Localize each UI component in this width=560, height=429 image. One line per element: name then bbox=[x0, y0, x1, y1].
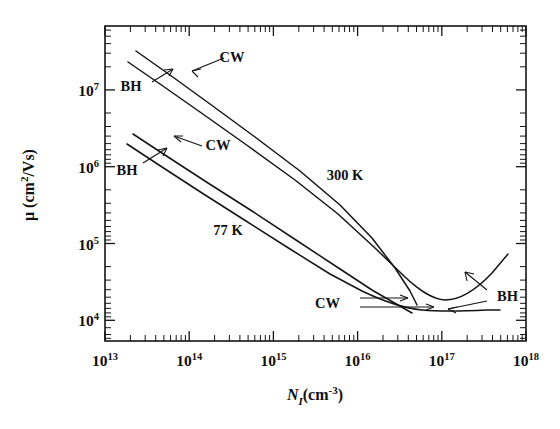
y-tick-label-0: 10 bbox=[78, 82, 94, 99]
x-tick-exp-2: 15 bbox=[276, 351, 287, 362]
y-axis-title-mu: μ bbox=[20, 212, 38, 221]
x-tick-exp-1: 14 bbox=[192, 351, 203, 362]
mobility-vs-ionized-impurity-chart: 1013 1014 1015 1016 1017 1018 107 bbox=[0, 0, 560, 429]
annotation-temp-77k: 77 K bbox=[213, 222, 243, 238]
x-tick-label-5: 10 bbox=[513, 352, 529, 369]
x-tick-exp-4: 17 bbox=[444, 351, 455, 362]
curve-cw-77k bbox=[133, 134, 412, 313]
svg-text:105: 105 bbox=[78, 235, 99, 253]
svg-text:1018: 1018 bbox=[513, 351, 539, 369]
svg-text:1015: 1015 bbox=[260, 351, 286, 369]
x-tick-exp-3: 16 bbox=[360, 351, 371, 362]
curve-bh-300k bbox=[128, 62, 508, 300]
data-curves bbox=[127, 51, 508, 313]
annotation-bh-upper: BH bbox=[121, 78, 143, 94]
svg-text:107: 107 bbox=[78, 81, 99, 99]
y-tick-labels: 107 106 105 104 bbox=[78, 81, 100, 329]
x-axis-title: NI(cm-3) bbox=[286, 384, 343, 407]
plot-annotations: CW BH CW BH 300 K 77 K CW BH bbox=[117, 49, 519, 311]
chart-svg: 1013 1014 1015 1016 1017 1018 107 bbox=[0, 0, 560, 429]
annotation-cw-lower: CW bbox=[206, 137, 231, 153]
x-tick-label-2: 10 bbox=[260, 352, 276, 369]
x-tick-label-1: 10 bbox=[176, 352, 192, 369]
annotation-bh-lower: BH bbox=[117, 162, 139, 178]
arrowhead-cw-upper bbox=[192, 69, 201, 77]
annotation-temp-300k: 300 K bbox=[327, 167, 364, 183]
y-axis-title: μ (cm2/Vs) bbox=[18, 149, 38, 221]
y-tick-exp-3: 4 bbox=[94, 311, 100, 322]
y-axis-title-close: /Vs) bbox=[20, 149, 38, 178]
annotation-leaders bbox=[143, 58, 487, 313]
annotation-cw-bottom: CW bbox=[315, 295, 340, 311]
y-tick-label-2: 10 bbox=[78, 236, 94, 253]
x-tick-label-3: 10 bbox=[345, 352, 361, 369]
y-tick-exp-0: 7 bbox=[94, 81, 99, 92]
svg-text:106: 106 bbox=[78, 158, 99, 176]
svg-text:1013: 1013 bbox=[92, 351, 118, 369]
curve-bh-77k bbox=[127, 144, 500, 311]
x-axis-title-unit-close: ) bbox=[338, 386, 343, 404]
leader-cw-lower bbox=[174, 136, 202, 146]
x-tick-exp-5: 18 bbox=[529, 351, 540, 362]
x-tick-labels: 1013 1014 1015 1016 1017 1018 bbox=[92, 351, 539, 369]
x-axis-title-unit-open: (cm bbox=[303, 386, 329, 404]
annotation-bh-right: BH bbox=[497, 288, 519, 304]
x-tick-label-4: 10 bbox=[429, 352, 445, 369]
annotation-cw-upper: CW bbox=[220, 49, 245, 65]
svg-text:1017: 1017 bbox=[429, 351, 455, 369]
y-tick-exp-2: 5 bbox=[94, 235, 99, 246]
svg-text:104: 104 bbox=[78, 311, 100, 329]
svg-text:1014: 1014 bbox=[176, 351, 203, 369]
x-tick-exp-0: 13 bbox=[108, 351, 119, 362]
svg-text:1016: 1016 bbox=[345, 351, 371, 369]
y-tick-exp-1: 6 bbox=[94, 158, 99, 169]
y-axis-title-open: (cm bbox=[20, 181, 38, 211]
x-tick-label-0: 10 bbox=[92, 352, 108, 369]
y-tick-label-3: 10 bbox=[78, 312, 94, 329]
y-tick-label-1: 10 bbox=[78, 159, 94, 176]
